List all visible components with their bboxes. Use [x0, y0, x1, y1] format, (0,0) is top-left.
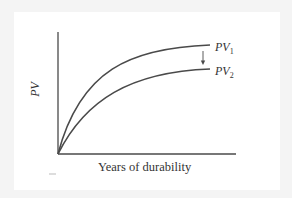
shift-down-arrow-icon	[201, 51, 205, 65]
pv2-label-base: PV	[215, 64, 230, 78]
pv2-label-sub: 2	[230, 71, 234, 80]
pv1-label: PV1	[215, 40, 234, 56]
pv2-label: PV2	[215, 64, 234, 80]
pv2-curve	[58, 69, 210, 154]
pv1-label-sub: 1	[230, 47, 234, 56]
pv1-label-base: PV	[215, 40, 230, 54]
pv1-curve	[58, 45, 210, 154]
x-axis-label: Years of durability	[98, 160, 191, 175]
y-axis-label: PV	[28, 82, 43, 97]
